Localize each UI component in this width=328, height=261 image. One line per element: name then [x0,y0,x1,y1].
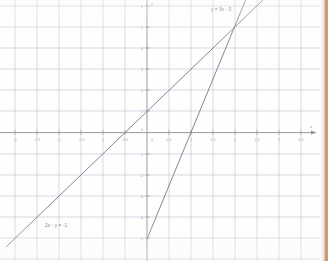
y-tick-label: -1 [140,153,143,157]
y-tick-label: 1 [141,110,143,114]
y-tick-label: -2 [140,174,143,178]
y-tick-label: 3 [141,68,143,72]
y-tick-label: 4 [141,47,143,51]
y-tickmarks [145,6,150,238]
equation-label-line1: 2x - y = -1 [45,223,67,228]
line-2x-minus-y-equals-minus1 [6,0,264,247]
equation-label-line2: y = 5x - 5 [211,7,232,12]
x-axis-name: x [309,124,313,129]
coordinate-plot: -3 -2.5 -2 -1.5 -1 -0.5 0 0.5 1 1.5 2 2.… [0,0,323,261]
vertical-gridlines [15,0,301,261]
y-tick-label: -5 [140,237,143,241]
x-tick-label: 1.5 [210,138,215,142]
y-tick-label: 2 [141,89,143,93]
x-tick-label: 3 [278,138,280,142]
y-tick-label: 5 [141,26,143,30]
x-tick-label: -1 [101,138,104,142]
y-tick-label: -4 [140,216,143,220]
x-axis-arrow [311,131,316,135]
x-tick-labels: -3 -2.5 -2 -1.5 -1 -0.5 0 0.5 1 1.5 2 2.… [13,138,303,142]
x-tick-label: 1 [190,138,192,142]
x-tick-label: 0 [151,138,153,142]
x-tick-label: -2.5 [34,138,41,142]
graph-svg: -3 -2.5 -2 -1.5 -1 -0.5 0 0.5 1 1.5 2 2.… [0,0,323,261]
x-tick-label: 2.5 [254,138,259,142]
y-tick-label: -3 [140,195,143,199]
x-tick-label: -2 [57,138,60,142]
line-y-equals-5x-minus-5 [147,0,246,239]
x-tick-label: 0.5 [166,138,171,142]
x-tick-label: -1.5 [78,138,85,142]
graph-page: -3 -2.5 -2 -1.5 -1 -0.5 0 0.5 1 1.5 2 2.… [0,0,328,261]
x-tick-label: -0.5 [122,138,129,142]
x-tick-label: 2 [234,138,236,142]
y-tick-labels: 6 5 4 3 2 1 0 -1 -2 -3 -4 -5 [140,5,143,241]
y-axis-name: y [150,1,154,6]
y-tick-label: 6 [141,5,143,9]
paper-binding-edge [323,0,328,261]
x-tick-label: 3.5 [298,138,303,142]
x-tick-label: -3 [13,138,16,142]
y-tick-label: 0 [141,128,143,132]
axis-lines [0,0,316,261]
